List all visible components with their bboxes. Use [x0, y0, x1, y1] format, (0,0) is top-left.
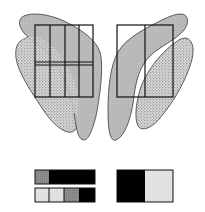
left-panel [16, 14, 102, 140]
top-bar [35, 170, 95, 184]
right-panel [108, 14, 193, 140]
bottom-right-block [117, 170, 173, 202]
figure-canvas [0, 0, 205, 212]
bottom-left-bars [35, 170, 95, 202]
bottom-bar [35, 188, 95, 202]
